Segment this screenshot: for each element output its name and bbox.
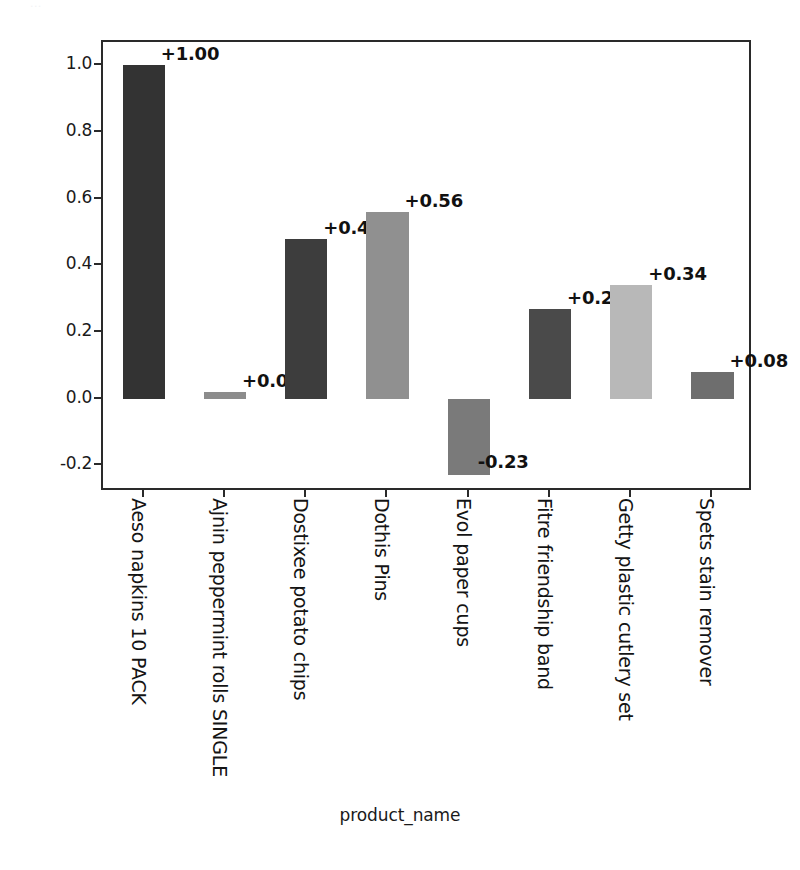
- y-axis-tick-label: 0.0: [30, 387, 92, 407]
- bar[interactable]: [285, 239, 327, 399]
- x-axis-category-label-text: Evol paper cups: [451, 498, 477, 788]
- x-axis-tick-mark: [710, 490, 712, 497]
- x-axis-category-label[interactable]: Spets stain remover: [694, 498, 720, 788]
- y-axis-tick-label: 0.8: [30, 120, 92, 140]
- bar[interactable]: [366, 212, 408, 399]
- y-axis-tick-mark: [94, 130, 101, 132]
- x-axis-category-label[interactable]: Fitre friendship band: [532, 498, 558, 788]
- bar[interactable]: [123, 65, 165, 398]
- bar-value-label: +1.00: [161, 43, 220, 64]
- x-axis-title: product_name: [0, 805, 800, 825]
- x-axis-tick-labels: Aeso napkins 10 PACKAjnin peppermint rol…: [101, 498, 751, 788]
- y-axis-tick-label: 0.2: [30, 320, 92, 340]
- y-axis-tick-mark: [94, 463, 101, 465]
- x-axis-category-label[interactable]: Ajnin peppermint rolls SINGLE: [207, 498, 233, 788]
- x-axis-category-label-text: Spets stain remover: [694, 498, 720, 788]
- y-axis-tick-label: 0.4: [30, 253, 92, 273]
- x-axis-category-label[interactable]: Dostixee potato chips: [288, 498, 314, 788]
- x-axis-tick-mark: [629, 490, 631, 497]
- x-axis-tick-mark: [304, 490, 306, 497]
- x-axis-category-label-text: Aeso napkins 10 PACK: [126, 498, 152, 788]
- x-axis-category-label[interactable]: Dothis Pins: [369, 498, 395, 788]
- x-axis-tick-marks: [101, 490, 751, 498]
- y-axis-tick-mark: [94, 263, 101, 265]
- x-axis-category-label-text: Dothis Pins: [369, 498, 395, 788]
- x-axis-category-label-text: Getty plastic cutlery set: [613, 498, 639, 788]
- bar-value-label: -0.23: [478, 451, 529, 472]
- x-axis-tick-mark: [385, 490, 387, 497]
- x-axis-tick-mark: [548, 490, 550, 497]
- x-axis-category-label[interactable]: Evol paper cups: [451, 498, 477, 788]
- bar-chart-figure: 1.00.80.60.40.20.0-0.2 +1.00+0.02+0.48+0…: [0, 0, 800, 870]
- x-axis-category-label-text: Ajnin peppermint rolls SINGLE: [207, 498, 233, 788]
- x-axis-category-label-text: Dostixee potato chips: [288, 498, 314, 788]
- bar[interactable]: [204, 392, 246, 399]
- bar[interactable]: [610, 285, 652, 398]
- x-axis-category-label[interactable]: Getty plastic cutlery set: [613, 498, 639, 788]
- y-axis-tick-mark: [94, 330, 101, 332]
- bar-value-label: +0.34: [648, 263, 707, 284]
- x-axis-category-label[interactable]: Aeso napkins 10 PACK: [126, 498, 152, 788]
- x-axis-tick-mark: [142, 490, 144, 497]
- plot-frame: +1.00+0.02+0.48+0.56-0.23+0.27+0.34+0.08: [101, 40, 751, 490]
- y-axis-tick-mark: [94, 197, 101, 199]
- x-axis-category-label-text: Fitre friendship band: [532, 498, 558, 788]
- plot-area: +1.00+0.02+0.48+0.56-0.23+0.27+0.34+0.08: [103, 42, 749, 488]
- bar-value-label: +0.08: [730, 350, 789, 371]
- y-axis-tick-label: -0.2: [30, 453, 92, 473]
- y-axis-tick-mark: [94, 63, 101, 65]
- bar-value-label: +0.56: [405, 190, 464, 211]
- bar[interactable]: [529, 309, 571, 399]
- x-axis-tick-mark: [467, 490, 469, 497]
- y-axis-tick-mark: [94, 397, 101, 399]
- y-axis-tick-label: 0.6: [30, 187, 92, 207]
- y-axis-tick-labels: 1.00.80.60.40.20.0-0.2: [22, 40, 92, 490]
- x-axis-tick-mark: [223, 490, 225, 497]
- y-axis-tick-label: 1.0: [30, 53, 92, 73]
- bar[interactable]: [691, 372, 733, 399]
